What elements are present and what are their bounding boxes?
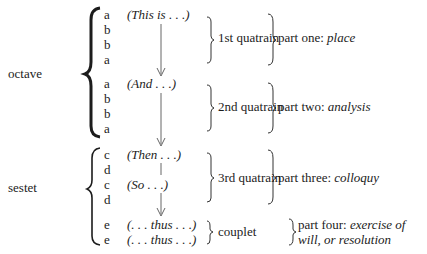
phrase-so: (So . . .) xyxy=(127,178,168,192)
phrase-this-is: (This is . . .) xyxy=(127,8,189,22)
phrase-then: (Then . . .) xyxy=(127,148,181,162)
rhyme-letter: c xyxy=(104,148,110,162)
rhyme-letter: a xyxy=(104,53,110,67)
part-prefix: part four: xyxy=(298,217,350,232)
phrase-thus-1: (. . . thus . . .) xyxy=(127,218,196,232)
section-label-sestet: sestet xyxy=(8,181,37,195)
unit-label-2nd-quatrain: 2nd quatrain xyxy=(218,100,283,114)
unit-label-3rd-quatrain: 3rd quatrain xyxy=(218,171,281,185)
rhyme-letter: a xyxy=(104,77,110,91)
phrase-thus-2: (. . . thus . . .) xyxy=(127,233,196,247)
sestet-brace xyxy=(87,148,100,245)
part-emphasis: colloquy xyxy=(334,170,379,185)
rhyme-letter: a xyxy=(104,122,110,136)
part-prefix: part three: xyxy=(278,170,334,185)
rhyme-letter: b xyxy=(104,92,111,106)
part-label-two: part two: analysis xyxy=(278,100,370,114)
rhyme-letter: b xyxy=(104,38,111,52)
rhyme-letter: e xyxy=(104,218,110,232)
part-emphasis: analysis xyxy=(328,99,371,114)
phrase-and: (And . . .) xyxy=(127,77,176,91)
part-emphasis: place xyxy=(327,30,355,45)
unit-label-couplet: couplet xyxy=(218,225,256,239)
unit-label-1st-quatrain: 1st quatrain xyxy=(218,31,279,45)
part-label-three: part three: colloquy xyxy=(278,171,379,185)
part-label-one: part one: place xyxy=(278,31,355,45)
part-prefix: part one: xyxy=(278,30,327,45)
rhyme-letter: d xyxy=(104,193,111,207)
rhyme-letter: b xyxy=(104,23,111,37)
part-prefix: part two: xyxy=(278,99,328,114)
rhyme-letter: d xyxy=(104,163,111,177)
rhyme-letter: a xyxy=(104,8,110,22)
diagram-lines xyxy=(0,0,427,254)
rhyme-letter: e xyxy=(104,233,110,247)
section-label-octave: octave xyxy=(8,67,42,81)
octave-brace xyxy=(85,8,100,137)
rhyme-letter: c xyxy=(104,178,110,192)
part-label-four: part four: exercise of xyxy=(298,218,405,232)
part-emphasis: exercise of xyxy=(350,217,405,232)
part-label-four-line2: will, or resolution xyxy=(298,233,391,247)
rhyme-letter: b xyxy=(104,107,111,121)
